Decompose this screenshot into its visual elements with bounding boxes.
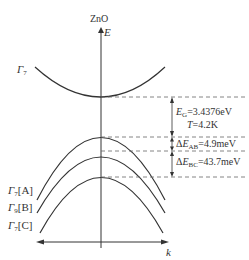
valence-band-b-label: Γ9[B]	[8, 202, 32, 215]
k-axis-left-arrow	[36, 240, 44, 245]
energy-axis-label: E	[104, 27, 111, 38]
valence-band-a-label: Γ7[A]	[8, 185, 33, 198]
k-axis-label: k	[166, 247, 171, 258]
delta-bc-label: ΔEBC=43.7meV	[176, 157, 240, 169]
delta-ab-label: ΔEAB=4.9meV	[176, 139, 236, 151]
conduction-band-label: Γ7	[17, 64, 27, 77]
band-gap-label: EG=3.4376eV	[176, 107, 232, 119]
band-diagram	[0, 0, 249, 260]
temperature-label: T=4.2K	[187, 120, 218, 130]
conduction-band-curve	[35, 67, 165, 97]
material-label: ZnO	[90, 14, 108, 24]
valence-band-c-label: Γ7[C]	[8, 220, 32, 233]
k-axis-right-arrow	[161, 240, 169, 245]
